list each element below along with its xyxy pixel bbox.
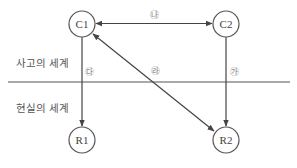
- node-r1-label: R1: [76, 134, 89, 146]
- region-label-reality: 현실의 세계: [16, 100, 69, 115]
- node-r2-label: R2: [220, 134, 233, 146]
- edge-label-c2-r2: ㉮: [230, 65, 239, 78]
- node-c2: C2: [213, 11, 239, 37]
- node-c1: C1: [69, 11, 95, 37]
- edge-label-c1-c2: ㉯: [150, 8, 159, 21]
- edge-label-r2-c1: ㉱: [151, 64, 160, 77]
- node-c2-label: C2: [220, 18, 233, 30]
- diagram-canvas: C1 C2 R1 R2: [0, 0, 297, 168]
- node-c1-label: C1: [76, 18, 89, 30]
- edge-label-c1-r1: ㉰: [85, 65, 94, 78]
- node-r2: R2: [213, 127, 239, 153]
- region-label-thought: 사고의 세계: [16, 55, 69, 70]
- node-r1: R1: [69, 127, 95, 153]
